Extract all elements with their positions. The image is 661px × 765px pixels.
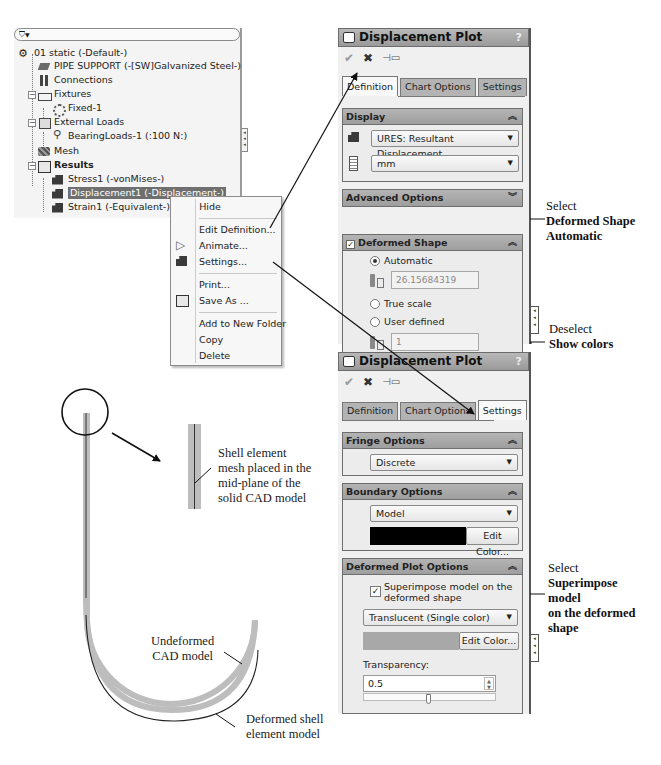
menu-item-add-to-new-folder[interactable]: Add to New Folder xyxy=(199,318,286,330)
tree-item-fixed-1[interactable]: Fixed-1 xyxy=(52,102,102,114)
menu-item-edit-definition[interactable]: Edit Definition... xyxy=(199,224,275,236)
group-header-boundary[interactable]: Boundary Options ︽ xyxy=(343,484,522,500)
user-defined-scale-field[interactable]: 1 xyxy=(391,333,479,351)
fixed-geometry-icon xyxy=(52,103,65,114)
group-header-advanced[interactable]: Advanced Options ︾ xyxy=(343,190,522,206)
checkbox-box[interactable]: ✓ xyxy=(370,586,381,597)
menu-item-delete[interactable]: Delete xyxy=(199,350,230,362)
menu-item-settings[interactable]: Settings... xyxy=(199,256,247,268)
group-deformed-plot-options: Deformed Plot Options ︽ ✓ Superimpose mo… xyxy=(342,558,523,714)
cancel-x-icon[interactable]: ✖ xyxy=(363,51,373,65)
deformed-shape-checkbox[interactable]: ✓ xyxy=(346,240,355,249)
tree-item-strain1[interactable]: Strain1 (-Equivalent-) xyxy=(52,201,170,213)
radio-button[interactable] xyxy=(370,256,380,266)
group-header-deformed-shape[interactable]: ✓Deformed Shape ︽ xyxy=(343,235,522,251)
transparency-input[interactable]: 0.5 ▲▼ xyxy=(363,675,496,692)
tree-line xyxy=(43,132,44,146)
automatic-scale-field[interactable]: 26.15684319 xyxy=(391,271,479,289)
spin-arrows-icon[interactable]: ▲▼ xyxy=(484,677,494,690)
superimpose-color-swatch xyxy=(363,632,459,650)
tree-item-mesh[interactable]: Mesh xyxy=(38,145,79,157)
context-menu: HHide Edit Definition... ▷ Animate... Se… xyxy=(170,196,282,366)
fixtures-icon xyxy=(38,89,51,100)
group-header-deformed-plot[interactable]: Deformed Plot Options ︽ xyxy=(343,559,522,575)
superimpose-edit-color-button[interactable]: Edit Color... xyxy=(459,632,519,650)
collapse-chevron-icon[interactable]: ︽ xyxy=(508,109,517,124)
tab-underline xyxy=(342,420,494,421)
superimpose-checkbox[interactable]: ✓ Superimpose model on thedeformed shape xyxy=(370,581,512,603)
note-superimpose: Select Superimpose model on the deformed… xyxy=(548,561,636,636)
tree-item-fixtures[interactable]: Fixtures xyxy=(38,88,91,100)
tab-strip: Definition Chart Options Settings xyxy=(342,402,527,420)
collapse-chevron-icon[interactable]: ︽ xyxy=(508,235,517,250)
collapse-chevron-icon[interactable]: ︽ xyxy=(508,433,517,448)
tree-item-results[interactable]: Results xyxy=(38,159,94,171)
cancel-x-icon[interactable]: ✖ xyxy=(363,375,373,389)
expander-external-loads[interactable]: − xyxy=(28,119,36,127)
tree-item-study[interactable]: ⚙ 01 static (-Default-) xyxy=(18,47,127,59)
group-boundary-options: Boundary Options ︽ Model▼ Edit Color... xyxy=(342,483,523,551)
superimpose-mode-select[interactable]: Translucent (Single color)▼ xyxy=(363,609,518,626)
ok-check-icon[interactable]: ✔ xyxy=(344,51,354,65)
radio-true-scale[interactable]: True scale xyxy=(370,298,432,310)
mesh-icon xyxy=(38,146,51,157)
radio-user-defined[interactable]: User defined xyxy=(370,316,444,328)
property-manager-definition: Displacement Plot ? ✔ ✖ ⊣▭ Definition Ch… xyxy=(338,28,531,344)
tree-item-bearing-load[interactable]: BearingLoads-1 (:100 N:) xyxy=(52,130,187,142)
tab-settings[interactable]: Settings xyxy=(478,78,527,96)
menu-item-animate[interactable]: Animate... xyxy=(199,240,248,252)
panel-title-bar: Displacement Plot ? xyxy=(338,352,529,371)
note-deformed-shape: Select Deformed Shape Automatic xyxy=(546,199,635,244)
radio-button[interactable] xyxy=(370,299,380,309)
collapse-chevron-icon[interactable]: ︽ xyxy=(508,484,517,499)
boundary-edit-color-button[interactable]: Edit Color... xyxy=(466,527,519,545)
results-folder-icon xyxy=(38,160,51,171)
tab-chart-options[interactable]: Chart Options xyxy=(400,402,476,420)
expand-chevron-icon[interactable]: ︾ xyxy=(508,190,517,205)
external-loads-icon xyxy=(38,117,51,128)
ok-check-icon[interactable]: ✔ xyxy=(344,375,354,389)
tab-definition[interactable]: Definition xyxy=(342,402,398,420)
displacement-plot-icon xyxy=(343,32,355,43)
menu-item-print[interactable]: Print... xyxy=(199,279,230,291)
units-select[interactable]: mm▼ xyxy=(371,155,519,172)
radio-automatic[interactable]: Automatic xyxy=(370,255,433,267)
panel-collapse-handle[interactable]: ◂◂◂ xyxy=(531,306,539,334)
menu-item-copy[interactable]: Copy xyxy=(199,334,223,346)
units-icon xyxy=(349,156,358,171)
menu-item-hide[interactable]: HHide xyxy=(199,201,221,213)
action-buttons: ✔ ✖ ⊣▭ xyxy=(344,51,400,65)
transparency-slider[interactable] xyxy=(363,693,496,701)
panel-collapse-handle[interactable]: ◂◂◂ xyxy=(531,634,539,662)
tab-chart-options[interactable]: Chart Options xyxy=(400,78,476,96)
tree-item-external-loads[interactable]: External Loads xyxy=(38,116,124,128)
tree-item-stress1[interactable]: Stress1 (-vonMises-) xyxy=(52,173,164,185)
expander-results[interactable]: − xyxy=(28,162,36,170)
help-button[interactable]: ? xyxy=(516,353,522,370)
component-icon xyxy=(348,131,361,143)
bearing-load-icon xyxy=(52,131,65,142)
slider-thumb[interactable] xyxy=(426,694,431,704)
tree-item-part[interactable]: PIPE SUPPORT (-[SW]Galvanized Steel-) xyxy=(38,60,241,72)
tree-collapse-handle[interactable]: ◂◂◂ xyxy=(242,128,248,152)
pushpin-icon[interactable]: ⊣▭ xyxy=(382,375,400,389)
collapse-chevron-icon[interactable]: ︽ xyxy=(508,559,517,574)
property-manager-settings: Displacement Plot ? ✔ ✖ ⊣▭ Definition Ch… xyxy=(338,352,531,714)
help-button[interactable]: ? xyxy=(516,29,522,46)
tab-definition[interactable]: Definition xyxy=(342,76,398,96)
tree-filter[interactable]: ⛉▼ xyxy=(14,28,240,41)
boundary-color-swatch xyxy=(370,527,466,545)
menu-item-save-as[interactable]: Save As ... xyxy=(199,295,249,307)
pushpin-icon[interactable]: ⊣▭ xyxy=(382,51,400,65)
tab-settings[interactable]: Settings xyxy=(478,400,527,420)
group-header-fringe[interactable]: Fringe Options ︽ xyxy=(343,433,522,449)
menu-gutter xyxy=(195,199,196,363)
radio-button[interactable] xyxy=(370,317,380,327)
boundary-select[interactable]: Model▼ xyxy=(370,505,518,522)
fringe-select[interactable]: Discrete▼ xyxy=(370,454,518,471)
group-header-display[interactable]: Display ︽ xyxy=(343,109,522,125)
expander-fixtures[interactable]: − xyxy=(28,91,36,99)
caption-shell-mesh: Shell element mesh placed in the mid-pla… xyxy=(218,446,311,506)
tree-item-connections[interactable]: Connections xyxy=(38,74,113,86)
component-select[interactable]: URES: Resultant Displacement▼ xyxy=(371,130,519,147)
